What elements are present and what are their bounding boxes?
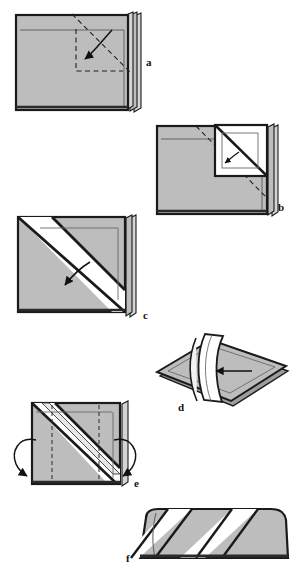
- step-f-group: f: [126, 509, 288, 564]
- step-label-c: c: [143, 309, 148, 321]
- step-b-group: b: [157, 124, 284, 216]
- step-label-d: d: [178, 401, 184, 413]
- step-a-group: a: [16, 12, 152, 112]
- step-c-group: c: [18, 215, 148, 321]
- step-e-group: e: [14, 401, 139, 489]
- step-b-sheet-stack: [268, 124, 278, 216]
- step-label-e: e: [134, 477, 139, 489]
- step-label-f: f: [126, 552, 130, 564]
- step-b-white-flap: [215, 125, 267, 176]
- origami-figure: a b: [0, 0, 296, 571]
- step-label-a: a: [146, 56, 152, 68]
- origami-diagram-canvas: a b: [0, 0, 296, 571]
- step-c-sheet-stack: [126, 215, 136, 317]
- step-label-b: b: [278, 201, 284, 213]
- step-a-paper-face: [16, 15, 128, 110]
